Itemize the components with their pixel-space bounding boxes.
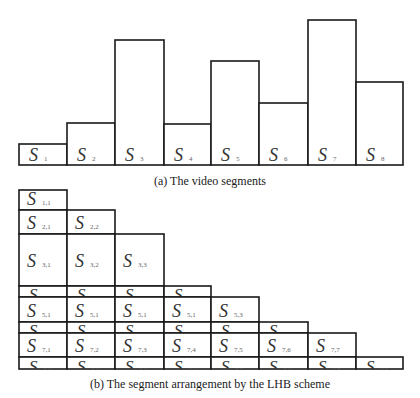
segment-bar-4 [164,124,211,165]
arrangement-cell-8-8 [356,357,403,369]
arrangement-cell-4-4 [164,286,211,297]
lhb-diagram: S1S2S3S4S5S6S7S8 S1,1S2,1S2,2S3,1S3,2S3,… [0,0,420,398]
caption-segment-arrangement: (b) The segment arrangement by the LHB s… [0,377,420,392]
segment-bar-8 [356,82,403,165]
segment-bar-3 [115,40,164,165]
video-segments-chart: S1S2S3S4S5S6S7S8 [19,20,403,165]
caption-video-segments: (a) The video segments [0,174,420,189]
segment-bar-5 [211,61,259,165]
arrangement-cell-8-4 [164,357,211,369]
segment-arrangement-grid: S1,1S2,1S2,2S3,1S3,2S3,3S4,1S4,2S4,3S4,4… [19,189,403,376]
segment-bar-7 [308,20,356,165]
segment-bar-1 [19,144,67,165]
segment-bar-2 [67,123,115,165]
arrangement-cell-6-4 [164,322,211,333]
